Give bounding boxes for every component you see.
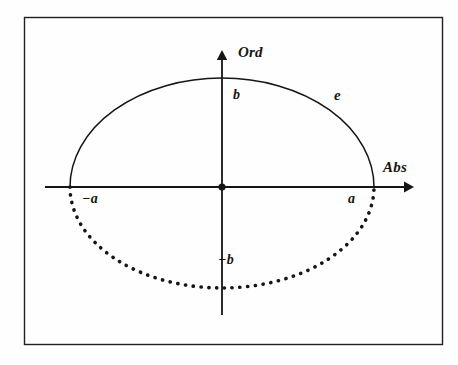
vertex-label-left-negative-a: −a: [82, 192, 98, 206]
origin-dot: [218, 183, 225, 190]
ellipse-curve-label: e: [334, 88, 341, 103]
ellipse-diagram-canvas: [0, 0, 458, 365]
ordinate-axis-label: Ord: [238, 45, 263, 60]
vertex-label-top-b: b: [233, 88, 240, 102]
figure-frame: [25, 18, 443, 345]
vertex-label-right-a: a: [348, 192, 355, 206]
figure-page: Ord Abs e b −b −a a: [0, 0, 458, 365]
abscissa-axis-label: Abs: [383, 160, 407, 175]
vertex-label-bottom-negative-b: −b: [218, 253, 234, 267]
